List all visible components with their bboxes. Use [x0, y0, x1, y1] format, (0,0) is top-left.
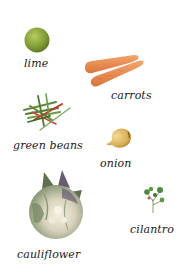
cauliflower-label: cauliflower [17, 248, 80, 261]
lime-item [24, 27, 50, 53]
cilantro-label: cilantro [130, 223, 174, 236]
lime-label: lime [24, 57, 48, 70]
green-beans-item [22, 90, 74, 136]
carrots-icon [82, 52, 148, 90]
cilantro-item [143, 185, 167, 215]
cauliflower-icon [22, 170, 88, 240]
lime-icon [24, 27, 50, 53]
onion-item [104, 126, 134, 150]
onion-icon [104, 126, 134, 150]
green-beans-icon [22, 90, 74, 136]
cauliflower-item [22, 170, 88, 240]
cilantro-icon [143, 185, 167, 215]
onion-label: onion [100, 157, 131, 170]
green-beans-label: green beans [13, 139, 83, 152]
carrots-item [82, 52, 148, 90]
carrots-label: carrots [111, 89, 152, 102]
